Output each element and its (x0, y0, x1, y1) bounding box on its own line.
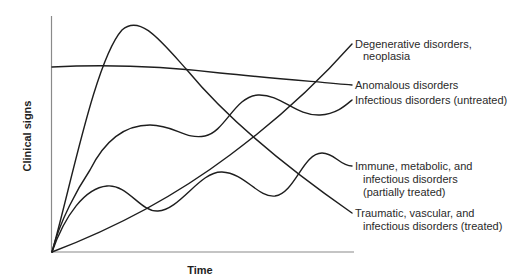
label-traumatic-line-2: infectious disorders (treated) (363, 220, 502, 232)
label-anomalous: Anomalous disorders (355, 79, 459, 91)
label-infectious-untreated-line-1: Infectious disorders (untreated) (355, 94, 507, 106)
label-degenerative-line-2: neoplasia (363, 50, 411, 62)
curve-degenerative-disorders (52, 44, 352, 252)
curve-infectious-untreated (52, 95, 352, 252)
label-immune: Immune, metabolic, and infectious disord… (355, 160, 472, 198)
label-degenerative-line-1: Degenerative disorders, (355, 38, 472, 50)
curve-immune-metabolic (52, 153, 352, 252)
label-immune-line-2: infectious disorders (363, 173, 458, 185)
x-axis-label: Time (187, 264, 212, 276)
label-degenerative: Degenerative disorders, neoplasia (355, 38, 472, 62)
label-immune-line-1: Immune, metabolic, and (355, 160, 472, 172)
clinical-signs-chart: Clinical signs Time Degenerative disorde… (0, 0, 523, 278)
label-traumatic-line-1: Traumatic, vascular, and (355, 207, 474, 219)
curve-traumatic-disorders (52, 25, 352, 252)
label-infectious-untreated: Infectious disorders (untreated) (355, 94, 507, 106)
label-traumatic: Traumatic, vascular, and infectious diso… (355, 207, 502, 232)
label-immune-line-3: (partially treated) (363, 186, 446, 198)
y-axis-label: Clinical signs (21, 101, 33, 172)
label-anomalous-line-1: Anomalous disorders (355, 79, 459, 91)
